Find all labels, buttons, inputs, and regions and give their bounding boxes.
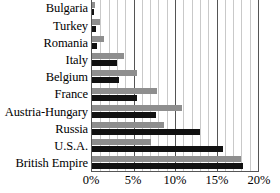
x-axis: 0%5%10%15%20% (91, 172, 259, 193)
category-label: Turkey (0, 17, 91, 34)
bar-group (92, 68, 258, 85)
bar-series-a (92, 53, 124, 59)
x-tick-label: 15% (206, 174, 229, 187)
bar-series-b (92, 60, 117, 66)
bar-group (92, 103, 258, 120)
x-tick-label: 5% (125, 174, 142, 187)
bar-chart: BulgariaTurkeyRomaniaItalyBelgiumFranceA… (0, 0, 280, 193)
bar-series-a (92, 2, 95, 8)
bar-group (92, 0, 258, 17)
bar-series-a (92, 105, 182, 111)
category-label: Bulgaria (0, 0, 91, 17)
bar-series-a (92, 70, 137, 76)
category-label: Romania (0, 34, 91, 51)
bar-series-b (92, 129, 200, 135)
bar-series-a (92, 139, 151, 145)
category-label: Austria-Hungary (0, 103, 91, 120)
category-label: Belgium (0, 69, 91, 86)
bar-group (92, 17, 258, 34)
bar-group (92, 85, 258, 102)
bar-series-a (92, 122, 164, 128)
x-tick-label: 20% (248, 174, 271, 187)
bar-series-a (92, 36, 104, 42)
bar-group (92, 137, 258, 154)
category-label: British Empire (0, 155, 91, 172)
bar-series-b (92, 26, 96, 32)
x-tick-label: 10% (164, 174, 187, 187)
bar-series-container (92, 0, 258, 171)
bar-group (92, 34, 258, 51)
bar-series-b (92, 163, 243, 169)
bar-series-b (92, 95, 137, 101)
category-axis-labels: BulgariaTurkeyRomaniaItalyBelgiumFranceA… (0, 0, 91, 172)
category-label: Russia (0, 120, 91, 137)
x-tick-label: 0% (83, 174, 100, 187)
bar-group (92, 120, 258, 137)
bar-series-a (92, 156, 241, 162)
category-label: France (0, 86, 91, 103)
category-label: Italy (0, 52, 91, 69)
category-label: U.S.A. (0, 138, 91, 155)
bar-series-a (92, 19, 100, 25)
bar-group (92, 51, 258, 68)
bar-series-b (92, 77, 119, 83)
bar-series-b (92, 43, 97, 49)
bar-series-b (92, 112, 156, 118)
bar-series-b (92, 146, 223, 152)
bar-group (92, 154, 258, 171)
plot-area (91, 0, 259, 172)
bar-series-b (92, 9, 94, 15)
bar-series-a (92, 88, 157, 94)
